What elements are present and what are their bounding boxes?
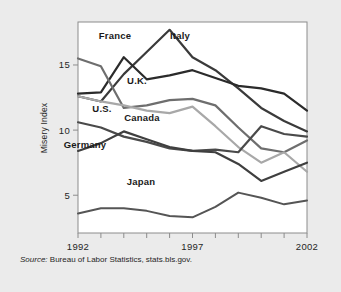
y-tick-label: 15 xyxy=(59,59,70,70)
x-axis-tick-labels: 199219972002 xyxy=(67,241,318,252)
x-axis-ticks xyxy=(78,233,307,238)
series-label-uk: U.K. xyxy=(127,75,147,86)
y-tick-label: 10 xyxy=(59,125,70,136)
y-axis-tick-labels: 51015 xyxy=(59,59,70,200)
figure-container: 51015 199219972002 Misery Index FranceIt… xyxy=(0,0,341,292)
source-note: Source: Bureau of Labor Statistics, stat… xyxy=(20,255,192,264)
y-axis-ticks xyxy=(73,65,78,195)
series-label-us: U.S. xyxy=(92,103,111,114)
series-label-germany: Germany xyxy=(64,139,107,150)
x-tick-label: 1997 xyxy=(181,241,203,252)
x-tick-label: 2002 xyxy=(296,241,318,252)
y-tick-label: 5 xyxy=(64,190,70,201)
y-axis-title: Misery Index xyxy=(39,102,49,153)
series-label-france: France xyxy=(99,30,131,41)
misery-index-line-chart: 51015 199219972002 Misery Index FranceIt… xyxy=(0,0,341,292)
series-label-japan: Japan xyxy=(127,176,155,187)
series-label-canada: Canada xyxy=(124,112,160,123)
series-label-italy: Italy xyxy=(170,30,191,41)
x-tick-label: 1992 xyxy=(67,241,89,252)
